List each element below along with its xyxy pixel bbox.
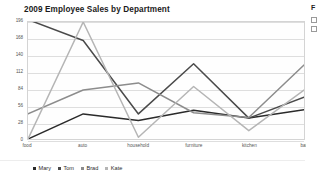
- side-panel: F: [306, 0, 332, 189]
- legend-label: Mary: [39, 166, 51, 172]
- y-axis-tick-label: 0: [21, 138, 23, 143]
- legend-swatch-icon: [58, 167, 61, 170]
- legend-swatch-icon: [33, 167, 36, 170]
- x-axis-tick-label: food: [22, 144, 31, 149]
- legend-item-kate[interactable]: Kate: [105, 166, 122, 172]
- chart-page: 2009 Employee Sales by Department 028568…: [0, 0, 332, 189]
- plot-area: [27, 21, 305, 140]
- y-axis-tick-label: 28: [18, 121, 23, 126]
- series-lines: [28, 22, 304, 139]
- legend-swatch-icon: [105, 167, 108, 170]
- chart-legend: MaryTomBradKate: [33, 166, 122, 172]
- x-axis: foodautohouseholdfurniturekitchenbath: [27, 144, 305, 154]
- y-axis: 0285684112140168196: [0, 21, 25, 140]
- x-axis-tick-label: household: [127, 144, 149, 149]
- series-line-brad: [28, 65, 304, 118]
- y-axis-tick-label: 168: [16, 36, 23, 41]
- checkbox-icon[interactable]: [311, 26, 317, 32]
- series-line-mary: [28, 110, 304, 139]
- legend-swatch-icon: [81, 167, 84, 170]
- series-line-kate: [28, 22, 304, 139]
- x-axis-tick-label: kitchen: [242, 144, 257, 149]
- legend-label: Tom: [63, 166, 74, 172]
- checkbox-icon[interactable]: [311, 17, 317, 23]
- y-axis-tick-label: 84: [18, 87, 23, 92]
- legend-item-mary[interactable]: Mary: [33, 166, 51, 172]
- chart-title: 2009 Employee Sales by Department: [24, 5, 170, 14]
- x-axis-tick-label: auto: [78, 144, 87, 149]
- legend-item-brad[interactable]: Brad: [81, 166, 98, 172]
- chart-card: 2009 Employee Sales by Department 028568…: [0, 0, 305, 189]
- legend-item-tom[interactable]: Tom: [58, 166, 74, 172]
- y-axis-tick-label: 112: [16, 70, 23, 75]
- legend-label: Brad: [87, 166, 99, 172]
- side-panel-row[interactable]: [311, 26, 317, 32]
- y-axis-tick-label: 140: [16, 53, 23, 58]
- gridline: [28, 141, 304, 142]
- side-panel-row[interactable]: [311, 17, 317, 23]
- x-axis-tick-label: furniture: [185, 144, 202, 149]
- side-panel-title: F: [311, 4, 315, 11]
- legend-divider: [0, 160, 305, 161]
- y-axis-tick-label: 56: [18, 104, 23, 109]
- legend-label: Kate: [111, 166, 123, 172]
- y-axis-tick-label: 196: [16, 19, 23, 24]
